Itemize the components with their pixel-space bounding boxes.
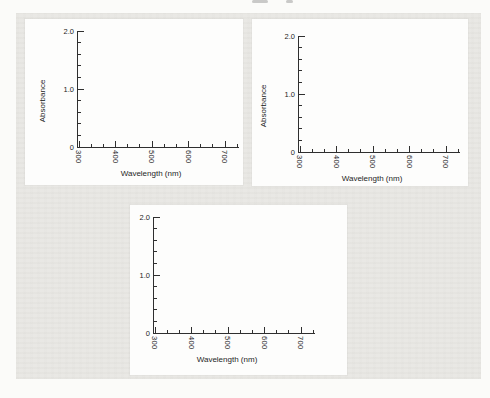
x-tick-label: 400 xyxy=(187,336,196,349)
y-tick-label: 0 xyxy=(146,329,150,338)
x-tick-label: 500 xyxy=(147,150,156,163)
x-tick-label: 400 xyxy=(111,150,120,163)
absorbance-spectrum-chart-3: 01.02.0300400500600700AbsorbanceWaveleng… xyxy=(130,205,317,367)
x-tick-label: 300 xyxy=(74,150,83,163)
y-tick-label: 0 xyxy=(70,143,74,152)
x-tick-label: 700 xyxy=(441,155,450,168)
y-tick-label: 1.0 xyxy=(285,90,295,99)
x-tick-label: 500 xyxy=(223,336,232,349)
x-axis-title: Wavelength (nm) xyxy=(197,355,258,364)
chart-panel-1: 01.02.0300400500600700AbsorbanceWaveleng… xyxy=(25,19,243,185)
x-tick-label: 600 xyxy=(260,336,269,349)
x-tick-label: 300 xyxy=(150,336,159,349)
x-tick-label: 600 xyxy=(405,155,414,168)
y-tick-label: 2.0 xyxy=(64,27,74,36)
cropped-text-artifact xyxy=(286,0,293,3)
x-tick-label: 600 xyxy=(184,150,193,163)
absorbance-spectrum-chart-1: 01.02.0300400500600700AbsorbanceWaveleng… xyxy=(25,19,241,181)
absorbance-spectrum-chart-2: 01.02.0300400500600700AbsorbanceWaveleng… xyxy=(252,24,462,186)
y-tick-label: 2.0 xyxy=(140,213,150,222)
y-tick-label: 2.0 xyxy=(285,32,295,41)
scanned-page: { "colors": { "scan_background": "#e9e8e… xyxy=(0,0,490,398)
chart-panel-2: 01.02.0300400500600700AbsorbanceWaveleng… xyxy=(252,19,468,186)
x-axis-title: Wavelength (nm) xyxy=(342,174,403,183)
y-tick-label: 0 xyxy=(291,148,295,157)
chart-panel-3: 01.02.0300400500600700AbsorbanceWaveleng… xyxy=(130,205,347,375)
x-tick-label: 400 xyxy=(332,155,341,168)
x-tick-label: 700 xyxy=(296,336,305,349)
y-axis-title: Absorbance xyxy=(259,84,268,127)
x-tick-label: 500 xyxy=(368,155,377,168)
x-tick-label: 300 xyxy=(295,155,304,168)
y-tick-label: 1.0 xyxy=(140,271,150,280)
x-tick-label: 700 xyxy=(220,150,229,163)
scanned-figure-background: 01.02.0300400500600700AbsorbanceWaveleng… xyxy=(16,13,481,379)
cropped-text-artifact xyxy=(252,0,268,3)
y-axis-title: Absorbance xyxy=(38,79,47,122)
x-axis-title: Wavelength (nm) xyxy=(121,169,182,178)
y-tick-label: 1.0 xyxy=(64,85,74,94)
